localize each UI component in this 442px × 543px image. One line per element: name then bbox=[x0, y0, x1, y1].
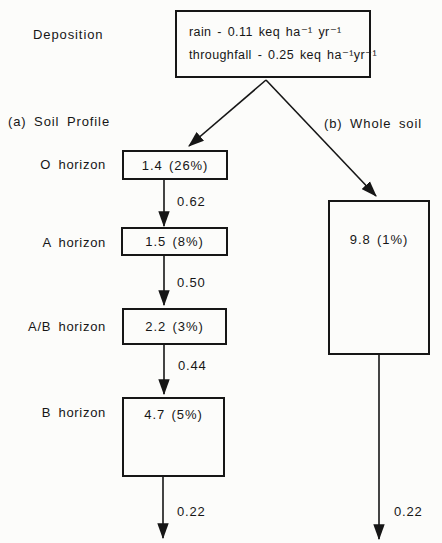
deposition-box: rain - 0.11 keq ha⁻¹ yr⁻¹ throughfall - … bbox=[175, 10, 371, 78]
horizon-box-a: 1.5 (8%) bbox=[121, 227, 228, 256]
whole-soil-value: 9.8 (1%) bbox=[350, 232, 408, 247]
flux-label-o-to-a: 0.62 bbox=[177, 194, 206, 209]
horizon-value-b: 4.7 (5%) bbox=[144, 407, 202, 422]
flux-label-b-outflow: 0.22 bbox=[177, 504, 206, 519]
section-a-label: (a) Soil Profile bbox=[8, 114, 110, 129]
horizon-label-o: O horizon bbox=[0, 157, 106, 172]
diagram-canvas: Deposition rain - 0.11 keq ha⁻¹ yr⁻¹ thr… bbox=[0, 0, 442, 543]
section-b-label: (b) Whole soil bbox=[324, 116, 422, 131]
horizon-value-ab: 2.2 (3%) bbox=[145, 319, 203, 334]
arrow-deposition-to-whole-soil bbox=[266, 80, 376, 196]
horizon-box-o: 1.4 (26%) bbox=[122, 150, 228, 180]
flux-label-ab-to-b: 0.44 bbox=[178, 358, 207, 373]
whole-soil-box: 9.8 (1%) bbox=[328, 200, 430, 355]
flux-label-a-to-ab: 0.50 bbox=[177, 275, 206, 290]
deposition-rain-line: rain - 0.11 keq ha⁻¹ yr⁻¹ bbox=[189, 21, 369, 44]
flux-label-whole-soil-outflow: 0.22 bbox=[394, 504, 423, 519]
deposition-title: Deposition bbox=[33, 27, 103, 42]
horizon-label-b: B horizon bbox=[0, 405, 106, 420]
horizon-value-a: 1.5 (8%) bbox=[145, 234, 203, 249]
horizon-value-o: 1.4 (26%) bbox=[142, 158, 208, 173]
horizon-box-ab: 2.2 (3%) bbox=[122, 308, 227, 345]
deposition-throughfall-line: throughfall - 0.25 keq ha⁻¹yr⁻¹ bbox=[189, 44, 369, 67]
arrow-deposition-to-soil-profile bbox=[189, 80, 266, 146]
horizon-box-b: 4.7 (5%) bbox=[122, 397, 225, 477]
horizon-label-ab: A/B horizon bbox=[0, 319, 106, 334]
horizon-label-a: A horizon bbox=[0, 235, 106, 250]
